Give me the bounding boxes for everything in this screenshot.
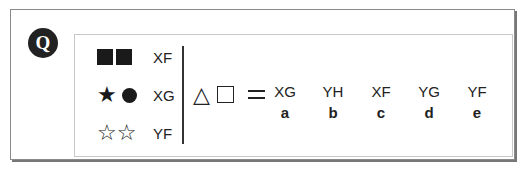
- key-symbols: [97, 49, 141, 65]
- key-row-1: XF: [97, 43, 172, 71]
- outline-triangle-icon: △: [193, 82, 210, 107]
- question-badge: Q: [28, 28, 58, 58]
- divider: [182, 46, 184, 144]
- question-panel: XF ★ XG ☆ ☆ YF △ XG a YH: [74, 34, 513, 157]
- outline-square-icon: [217, 86, 234, 103]
- filled-circle-icon: [122, 88, 137, 103]
- option-letter: e: [457, 102, 497, 124]
- key-code: YF: [153, 125, 172, 142]
- question-card: Q XF ★ XG ☆ ☆ YF △: [10, 9, 515, 160]
- filled-square-icon: [97, 49, 113, 65]
- key-row-3: ☆ ☆ YF: [97, 119, 172, 147]
- key-code: XF: [153, 49, 172, 66]
- option-value: YF: [457, 82, 497, 102]
- option-letter: b: [313, 102, 353, 124]
- outline-star-icon: ☆: [117, 122, 137, 144]
- option-letter: c: [361, 102, 401, 124]
- option-value: YH: [313, 82, 353, 102]
- option-letter: a: [265, 102, 305, 124]
- option-e[interactable]: YF e: [457, 82, 497, 124]
- key-symbols: ☆ ☆: [97, 122, 141, 144]
- option-value: YG: [409, 82, 449, 102]
- query-expression: △: [193, 82, 265, 107]
- option-c[interactable]: XF c: [361, 82, 401, 124]
- key-row-2: ★ XG: [97, 81, 175, 109]
- filled-square-icon: [116, 49, 132, 65]
- key-code: XG: [153, 87, 175, 104]
- option-b[interactable]: YH b: [313, 82, 353, 124]
- key-symbols: ★: [97, 84, 141, 106]
- option-letter: d: [409, 102, 449, 124]
- option-value: XF: [361, 82, 401, 102]
- option-d[interactable]: YG d: [409, 82, 449, 124]
- option-a[interactable]: XG a: [265, 82, 305, 124]
- option-value: XG: [265, 82, 305, 102]
- equals-sign: [248, 90, 265, 99]
- filled-star-icon: ★: [97, 84, 117, 106]
- outline-star-icon: ☆: [97, 122, 117, 144]
